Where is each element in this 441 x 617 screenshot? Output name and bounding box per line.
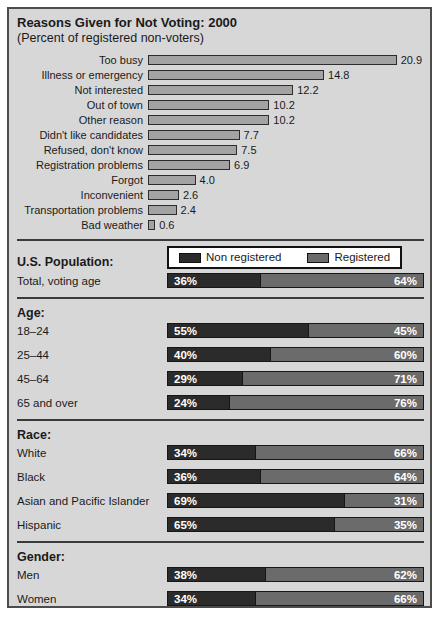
reason-value-label: 6.9 bbox=[234, 159, 249, 171]
population-rows: Total, voting age36%64% bbox=[17, 273, 424, 288]
reason-bar bbox=[148, 130, 240, 140]
non-registered-segment: 38% bbox=[168, 568, 265, 581]
reason-bar-track: 7.5 bbox=[148, 142, 424, 157]
category-label: 18–24 bbox=[17, 325, 167, 337]
legend-item-non-registered: Non registered bbox=[179, 251, 281, 264]
reason-row: Other reason10.2 bbox=[17, 112, 424, 127]
reason-bar-track: 4.0 bbox=[148, 172, 424, 187]
stacked-bar-row: Hispanic65%35% bbox=[17, 517, 424, 532]
reason-label: Too busy bbox=[17, 54, 148, 66]
stacked-bar-row: Asian and Pacific Islander69%31% bbox=[17, 493, 424, 508]
reason-bar-track: 20.9 bbox=[148, 52, 424, 67]
reason-bar-track: 0.6 bbox=[148, 217, 424, 232]
category-label: 65 and over bbox=[17, 397, 167, 409]
reason-bar bbox=[148, 205, 177, 215]
legend-label: Registered bbox=[334, 251, 390, 264]
non-registered-segment: 36% bbox=[168, 470, 260, 483]
category-label: White bbox=[17, 447, 167, 459]
reason-value-label: 4.0 bbox=[200, 174, 215, 186]
non-registered-segment: 34% bbox=[168, 592, 255, 605]
reason-bar bbox=[148, 70, 324, 80]
section: Gender:Men38%62%Women34%66% bbox=[17, 550, 424, 606]
section-divider bbox=[17, 239, 424, 241]
non-registered-segment: 36% bbox=[168, 274, 260, 287]
reason-value-label: 20.9 bbox=[401, 54, 422, 66]
chart-subtitle: (Percent of registered non-voters) bbox=[17, 31, 424, 46]
reason-row: Too busy20.9 bbox=[17, 52, 424, 67]
section-heading: Age: bbox=[17, 306, 424, 320]
reason-bar-track: 10.2 bbox=[148, 97, 424, 112]
registered-segment: 66% bbox=[255, 446, 423, 459]
non-registered-segment: 24% bbox=[168, 396, 229, 409]
category-label: Black bbox=[17, 471, 167, 483]
reason-row: Registration problems6.9 bbox=[17, 157, 424, 172]
stacked-bar: 34%66% bbox=[167, 591, 424, 606]
stacked-bar-row: 45–6429%71% bbox=[17, 371, 424, 386]
reason-bar bbox=[148, 100, 269, 110]
registered-segment: 31% bbox=[344, 494, 423, 507]
stacked-bar-row: 65 and over24%76% bbox=[17, 395, 424, 410]
reason-label: Not interested bbox=[17, 84, 148, 96]
stacked-bar: 69%31% bbox=[167, 493, 424, 508]
reason-label: Other reason bbox=[17, 114, 148, 126]
reason-bar-track: 6.9 bbox=[148, 157, 424, 172]
stacked-bar-row: 25–4440%60% bbox=[17, 347, 424, 362]
section: Race:White34%66%Black36%64%Asian and Pac… bbox=[17, 428, 424, 532]
stacked-bar: 34%66% bbox=[167, 445, 424, 460]
reason-value-label: 10.2 bbox=[273, 99, 294, 111]
category-label: Total, voting age bbox=[17, 275, 167, 287]
population-header-row: U.S. Population:Non registeredRegistered bbox=[17, 246, 424, 269]
reason-bar-track: 7.7 bbox=[148, 127, 424, 142]
reason-bar-track: 14.8 bbox=[148, 67, 424, 82]
legend-item-registered: Registered bbox=[307, 251, 390, 264]
reason-bar bbox=[148, 175, 196, 185]
stacked-bar-row: 18–2455%45% bbox=[17, 323, 424, 338]
section-heading: U.S. Population: bbox=[17, 255, 167, 269]
legend-label: Non registered bbox=[206, 251, 281, 264]
registered-segment: 76% bbox=[229, 396, 423, 409]
chart-title: Reasons Given for Not Voting: 2000 bbox=[17, 15, 424, 31]
reason-label: Forgot bbox=[17, 174, 148, 186]
reason-label: Out of town bbox=[17, 99, 148, 111]
stacked-bar-row: Men38%62% bbox=[17, 567, 424, 582]
non-registered-segment: 69% bbox=[168, 494, 344, 507]
registered-segment: 64% bbox=[260, 274, 423, 287]
reason-label: Refused, don't know bbox=[17, 144, 148, 156]
reason-bar bbox=[148, 145, 237, 155]
legend: Non registeredRegistered bbox=[167, 246, 402, 269]
registered-segment: 66% bbox=[255, 592, 423, 605]
reason-label: Bad weather bbox=[17, 219, 148, 231]
stacked-bar-row: White34%66% bbox=[17, 445, 424, 460]
registration-sections: U.S. Population:Non registeredRegistered… bbox=[17, 246, 424, 606]
stacked-bar: 36%64% bbox=[167, 273, 424, 288]
stacked-bar: 24%76% bbox=[167, 395, 424, 410]
non-registered-segment: 55% bbox=[168, 324, 308, 337]
reason-row: Bad weather0.6 bbox=[17, 217, 424, 232]
reason-bar-track: 2.6 bbox=[148, 187, 424, 202]
reason-label: Inconvenient bbox=[17, 189, 148, 201]
reason-bar-track: 12.2 bbox=[148, 82, 424, 97]
reason-label: Registration problems bbox=[17, 159, 148, 171]
non-registered-segment: 29% bbox=[168, 372, 242, 385]
reason-label: Transportation problems bbox=[17, 204, 148, 216]
category-label: Men bbox=[17, 569, 167, 581]
reason-label: Didn't like candidates bbox=[17, 129, 148, 141]
reason-row: Refused, don't know7.5 bbox=[17, 142, 424, 157]
reason-value-label: 2.6 bbox=[183, 189, 198, 201]
reason-row: Out of town10.2 bbox=[17, 97, 424, 112]
reason-row: Transportation problems2.4 bbox=[17, 202, 424, 217]
stacked-bar-row: Total, voting age36%64% bbox=[17, 273, 424, 288]
reason-bar bbox=[148, 55, 397, 65]
section-divider bbox=[17, 419, 424, 421]
category-label: Women bbox=[17, 593, 167, 605]
non-registered-segment: 40% bbox=[168, 348, 270, 361]
stacked-bar-row: Women34%66% bbox=[17, 591, 424, 606]
registered-segment: 62% bbox=[265, 568, 423, 581]
category-label: 45–64 bbox=[17, 373, 167, 385]
stacked-bar: 65%35% bbox=[167, 517, 424, 532]
registered-swatch bbox=[307, 253, 329, 263]
reason-row: Didn't like candidates7.7 bbox=[17, 127, 424, 142]
reason-value-label: 10.2 bbox=[273, 114, 294, 126]
reason-row: Inconvenient2.6 bbox=[17, 187, 424, 202]
stacked-bar: 29%71% bbox=[167, 371, 424, 386]
